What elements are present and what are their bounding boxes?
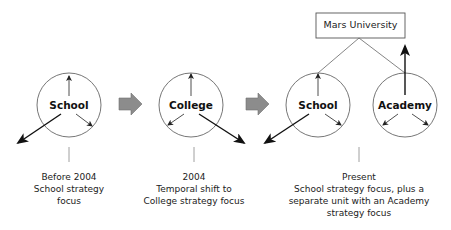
mars-university-label: Mars University <box>316 19 405 31</box>
connector-line-school <box>318 38 359 73</box>
caption-line: School strategy focus, plus a <box>279 183 439 195</box>
node-label-school-present: School <box>283 99 353 111</box>
caption-line: Temporal shift to <box>129 183 259 195</box>
node-label-college: College <box>156 99 226 111</box>
transition-arrow-2 <box>246 93 269 115</box>
node-label-academy: Academy <box>370 99 440 111</box>
caption-line: focus <box>9 195 129 207</box>
caption-line: strategy focus <box>279 207 439 219</box>
node-label-school-before: School <box>34 99 104 111</box>
stage-caption-before-2004: Before 2004 School strategy focus <box>9 171 129 207</box>
transition-arrow-1 <box>119 93 142 115</box>
caption-line: separate unit with an Academy <box>279 195 439 207</box>
stage-caption-present: Present School strategy focus, plus a se… <box>279 171 439 219</box>
caption-line: Before 2004 <box>9 171 129 183</box>
connector-line-academy <box>359 38 405 73</box>
node-academy <box>373 46 437 137</box>
caption-line: College strategy focus <box>129 195 259 207</box>
caption-line: 2004 <box>129 171 259 183</box>
caption-line: School strategy <box>9 183 129 195</box>
caption-line: Present <box>279 171 439 183</box>
stage-caption-2004: 2004 Temporal shift to College strategy … <box>129 171 259 207</box>
